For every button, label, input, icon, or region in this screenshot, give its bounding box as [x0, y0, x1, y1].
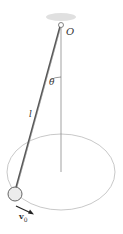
velocity-label: v0	[19, 212, 27, 223]
angle-label: θ	[49, 78, 54, 87]
pendulum-rod	[16, 27, 60, 188]
pivot-label: O	[66, 27, 74, 37]
conical-pendulum-diagram	[0, 0, 123, 234]
ceiling-mount	[46, 13, 76, 21]
pivot-point	[59, 23, 64, 28]
velocity-subscript: 0	[24, 216, 28, 223]
length-label: l	[29, 110, 32, 119]
velocity-arrowhead	[28, 210, 34, 215]
pendulum-bob	[8, 187, 22, 201]
